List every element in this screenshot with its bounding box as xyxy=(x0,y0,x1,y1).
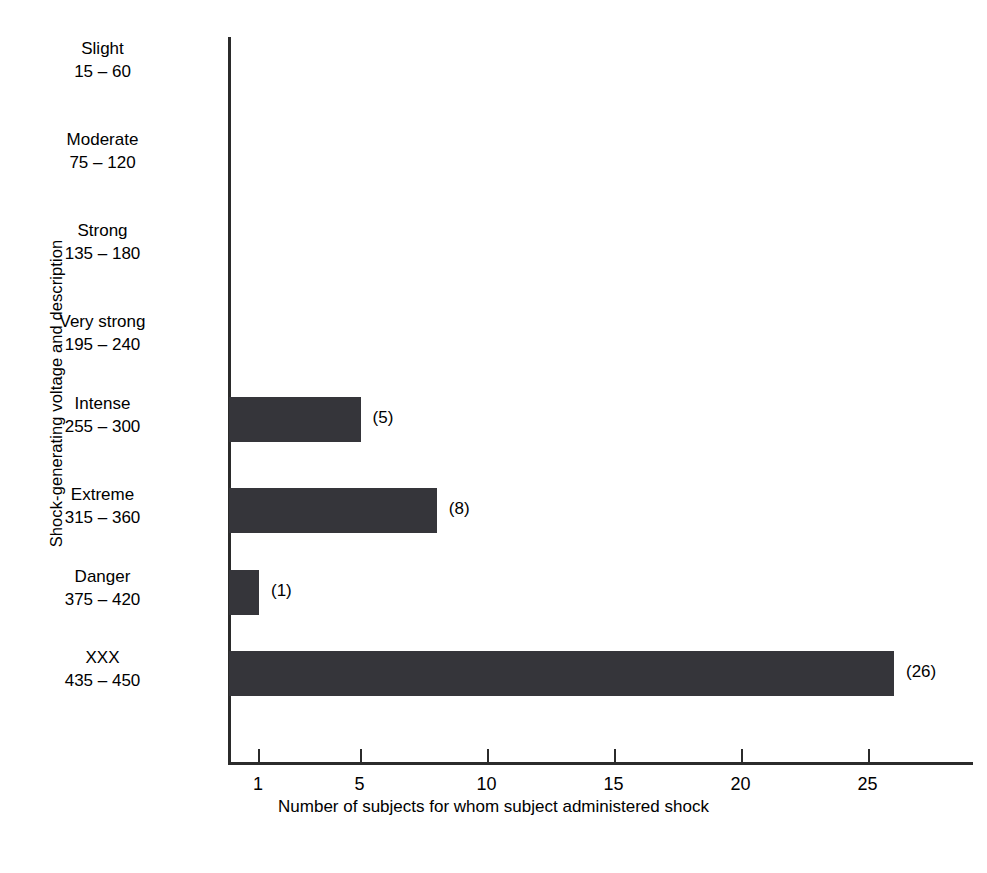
x-axis-tick xyxy=(614,749,616,763)
x-axis-tick-label: 15 xyxy=(584,774,644,795)
bar-chart-figure: Shock-generating voltage and description… xyxy=(0,0,987,873)
bar[interactable] xyxy=(229,651,894,696)
category-label: Intense255 – 300 xyxy=(0,392,205,438)
category-voltage-range: 315 – 360 xyxy=(0,506,205,529)
category-label: Slight15 – 60 xyxy=(0,37,205,83)
bar-row: Moderate75 – 120 xyxy=(0,128,987,204)
bar-row: Very strong195 – 240 xyxy=(0,310,987,386)
x-axis-tick-label: 1 xyxy=(228,774,288,795)
x-axis-tick-label: 25 xyxy=(838,774,898,795)
bar-value-label: (5) xyxy=(373,408,394,428)
category-name: Moderate xyxy=(0,128,205,151)
bar[interactable] xyxy=(229,488,437,533)
category-label: Very strong195 – 240 xyxy=(0,310,205,356)
x-axis-title: Number of subjects for whom subject admi… xyxy=(0,797,987,817)
category-label: Danger375 – 420 xyxy=(0,565,205,611)
category-name: Strong xyxy=(0,219,205,242)
bar-row: XXX435 – 450(26) xyxy=(0,646,987,722)
category-name: Intense xyxy=(0,392,205,415)
category-voltage-range: 195 – 240 xyxy=(0,333,205,356)
category-label: XXX435 – 450 xyxy=(0,646,205,692)
bar-value-label: (1) xyxy=(271,581,292,601)
plot-area: Slight15 – 60Moderate75 – 120Strong135 –… xyxy=(228,37,973,765)
x-axis-tick xyxy=(487,749,489,763)
x-axis-tick-label: 5 xyxy=(330,774,390,795)
category-voltage-range: 15 – 60 xyxy=(0,60,205,83)
category-voltage-range: 75 – 120 xyxy=(0,151,205,174)
bar-row: Intense255 – 300(5) xyxy=(0,392,987,468)
category-voltage-range: 435 – 450 xyxy=(0,669,205,692)
category-name: Very strong xyxy=(0,310,205,333)
category-name: Slight xyxy=(0,37,205,60)
x-axis-tick-label: 20 xyxy=(711,774,771,795)
bar-row: Slight15 – 60 xyxy=(0,37,987,113)
category-label: Moderate75 – 120 xyxy=(0,128,205,174)
x-axis-tick xyxy=(868,749,870,763)
x-axis-tick xyxy=(741,749,743,763)
category-label: Strong135 – 180 xyxy=(0,219,205,265)
category-name: XXX xyxy=(0,646,205,669)
bar-row: Extreme315 – 360(8) xyxy=(0,483,987,559)
bar[interactable] xyxy=(229,570,259,615)
bar-value-label: (8) xyxy=(449,499,470,519)
bar[interactable] xyxy=(229,397,361,442)
bar-value-label: (26) xyxy=(906,662,936,682)
bar-row: Strong135 – 180 xyxy=(0,219,987,295)
x-axis-tick-label: 10 xyxy=(457,774,517,795)
category-voltage-range: 255 – 300 xyxy=(0,415,205,438)
category-name: Danger xyxy=(0,565,205,588)
x-axis-tick xyxy=(258,749,260,763)
category-label: Extreme315 – 360 xyxy=(0,483,205,529)
category-voltage-range: 135 – 180 xyxy=(0,242,205,265)
category-voltage-range: 375 – 420 xyxy=(0,588,205,611)
x-axis-line xyxy=(228,762,973,765)
category-name: Extreme xyxy=(0,483,205,506)
bar-row: Danger375 – 420(1) xyxy=(0,565,987,641)
x-axis-tick xyxy=(360,749,362,763)
